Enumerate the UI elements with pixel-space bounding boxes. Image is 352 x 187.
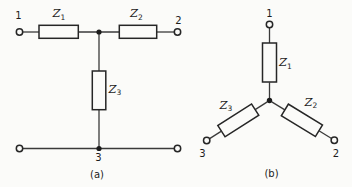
terminal-1-node: [16, 29, 22, 35]
impedance-label-z3: Z3: [108, 82, 122, 98]
wire-center-to-z3: [255, 102, 267, 110]
circuit-diagram-svg: 1 2 3 Z1 Z2 Z3 (a): [0, 0, 352, 187]
impedance-z2-box: [119, 25, 156, 38]
junction-dot-bottom: [96, 146, 101, 151]
terminal-label-2: 2: [175, 15, 181, 26]
terminal-2-node: [174, 29, 180, 35]
impedance-label-z1: Z1: [52, 6, 66, 22]
figure-b: 1 3 2 Z1 Z3 Z2 (b): [199, 8, 339, 179]
terminal-label-1: 1: [15, 10, 21, 21]
impedance-z1-box: [263, 43, 277, 82]
wire-z3-to-t3: [210, 131, 222, 139]
figure-caption-b: (b): [264, 168, 278, 179]
figure-caption-a: (a): [90, 169, 104, 180]
terminal-2-node: [331, 137, 337, 143]
star-junction-dot: [267, 98, 272, 103]
impedance-label-z1: Z1: [278, 55, 292, 71]
figure-a: 1 2 3 Z1 Z2 Z3 (a): [15, 6, 181, 180]
branch-z2: [268, 96, 335, 144]
impedance-label-z3: Z3: [219, 98, 233, 114]
terminal-label-3: 3: [95, 152, 101, 163]
impedance-z3-box: [92, 71, 106, 110]
terminal-3-left-node: [16, 145, 22, 151]
junction-dot-top: [96, 29, 101, 34]
impedance-label-z2: Z2: [129, 6, 143, 22]
wire-z2-to-t2: [319, 131, 332, 139]
circuit-figure: 1 2 3 Z1 Z2 Z3 (a): [0, 0, 352, 187]
terminal-3-right-node: [174, 145, 180, 151]
terminal-3-node: [204, 137, 210, 143]
branch-z3: [206, 96, 271, 144]
impedance-label-z2: Z2: [304, 95, 318, 111]
terminal-1-node: [266, 21, 272, 27]
terminal-label-1: 1: [266, 8, 272, 19]
impedance-z1-box: [39, 25, 78, 38]
wire-center-to-z2: [272, 102, 285, 110]
terminal-label-3: 3: [199, 148, 205, 159]
terminal-label-2: 2: [333, 148, 339, 159]
